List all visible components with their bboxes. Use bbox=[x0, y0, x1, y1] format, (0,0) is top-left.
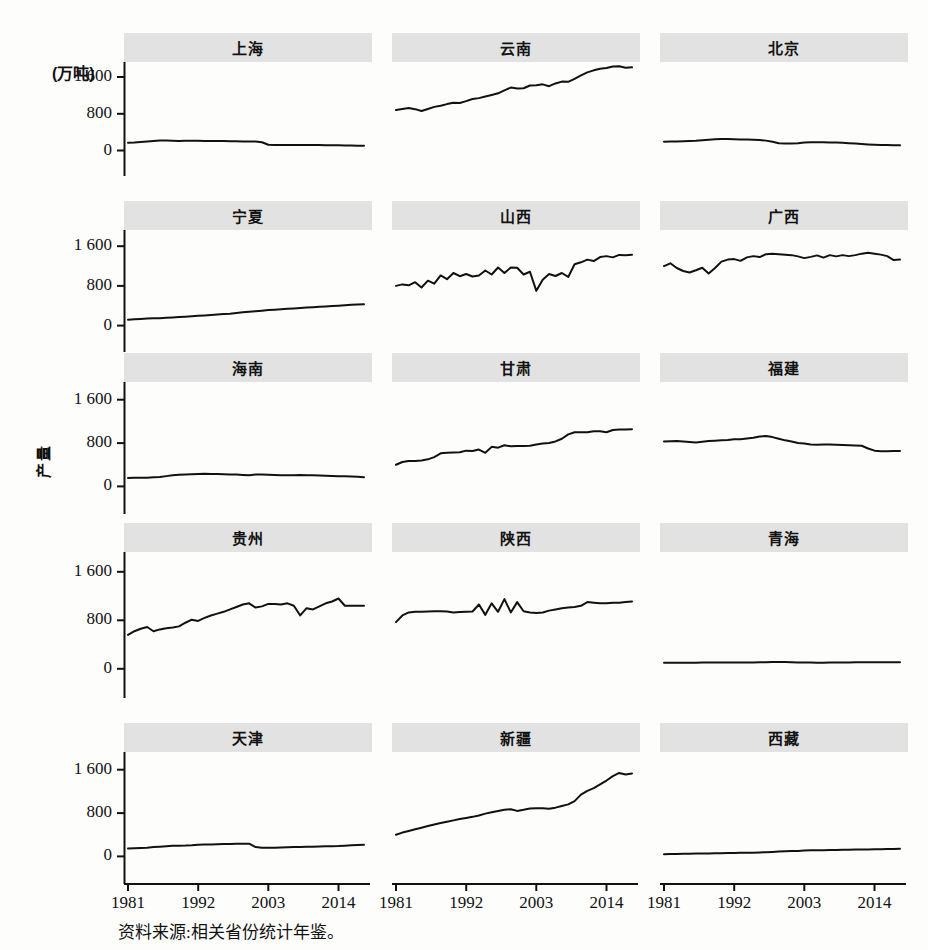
panel-plot bbox=[660, 230, 908, 364]
chart-panel: 海南 bbox=[124, 353, 372, 530]
panel-title-label: 西藏 bbox=[768, 727, 800, 748]
panel-title-strip: 上海 bbox=[124, 33, 372, 62]
panel-plot bbox=[660, 62, 908, 188]
chart-panel: 福建 bbox=[660, 353, 908, 530]
y-axis-tick-label: 0 bbox=[32, 140, 112, 160]
panel-title-label: 云南 bbox=[500, 37, 532, 58]
chart-panel: 北京 bbox=[660, 33, 908, 192]
panel-title-label: 甘肃 bbox=[500, 357, 532, 378]
panel-title-label: 广西 bbox=[768, 205, 800, 226]
chart-panel: 贵州 bbox=[124, 523, 372, 714]
series-line bbox=[128, 141, 364, 146]
series-line bbox=[396, 255, 632, 291]
y-axis-tick-label: 800 bbox=[32, 275, 112, 295]
panel-plot bbox=[392, 752, 640, 896]
panel-title-strip: 北京 bbox=[660, 33, 908, 62]
chart-panel: 西藏 bbox=[660, 723, 908, 900]
panel-title-label: 贵州 bbox=[232, 527, 264, 548]
y-axis-tick-label: 1 600 bbox=[32, 759, 112, 779]
series-line bbox=[664, 849, 900, 854]
panel-title-strip: 甘肃 bbox=[392, 353, 640, 382]
y-axis-tick-label: 0 bbox=[32, 315, 112, 335]
series-line bbox=[664, 436, 900, 451]
panel-plot bbox=[124, 552, 372, 710]
panel-title-label: 天津 bbox=[232, 727, 264, 748]
panel-title-strip: 广西 bbox=[660, 201, 908, 230]
series-line bbox=[396, 429, 632, 465]
panel-title-label: 宁夏 bbox=[232, 205, 264, 226]
y-axis-tick-label: 1 600 bbox=[32, 389, 112, 409]
panel-title-strip: 青海 bbox=[660, 523, 908, 552]
panel-title-strip: 天津 bbox=[124, 723, 372, 752]
panel-title-strip: 贵州 bbox=[124, 523, 372, 552]
series-line bbox=[664, 662, 900, 663]
y-axis-tick-label: 0 bbox=[32, 845, 112, 865]
chart-panel: 陕西 bbox=[392, 523, 640, 714]
y-axis-tick-label: 0 bbox=[32, 658, 112, 678]
panel-title-strip: 海南 bbox=[124, 353, 372, 382]
panel-title-label: 新疆 bbox=[500, 727, 532, 748]
series-line bbox=[664, 139, 900, 145]
y-axis-tick-label: 800 bbox=[32, 802, 112, 822]
trellis-chart-figure: (万吨)产量资料来源:相关省份统计年鉴。08001 600上海云南北京08001… bbox=[0, 0, 928, 950]
chart-panel: 新疆 bbox=[392, 723, 640, 900]
panel-title-strip: 福建 bbox=[660, 353, 908, 382]
chart-panel: 青海 bbox=[660, 523, 908, 714]
panel-title-label: 山西 bbox=[500, 205, 532, 226]
chart-panel: 山西 bbox=[392, 201, 640, 368]
panel-title-strip: 新疆 bbox=[392, 723, 640, 752]
y-axis-tick-label: 800 bbox=[32, 432, 112, 452]
panel-title-label: 北京 bbox=[768, 37, 800, 58]
series-line bbox=[396, 773, 632, 835]
series-line bbox=[128, 474, 364, 478]
series-line bbox=[128, 598, 364, 634]
series-line bbox=[396, 66, 632, 111]
series-line bbox=[128, 844, 364, 849]
panel-plot bbox=[124, 62, 372, 188]
panel-title-label: 陕西 bbox=[500, 527, 532, 548]
panel-title-strip: 陕西 bbox=[392, 523, 640, 552]
panel-title-label: 青海 bbox=[768, 527, 800, 548]
panel-title-strip: 西藏 bbox=[660, 723, 908, 752]
chart-panel: 上海 bbox=[124, 33, 372, 192]
series-line bbox=[128, 304, 364, 319]
y-axis-tick-label: 800 bbox=[32, 103, 112, 123]
source-note: 资料来源:相关省份统计年鉴。 bbox=[118, 918, 344, 943]
panel-title-strip: 宁夏 bbox=[124, 201, 372, 230]
panel-title-label: 海南 bbox=[232, 357, 264, 378]
panel-title-strip: 山西 bbox=[392, 201, 640, 230]
y-axis-tick-label: 1 600 bbox=[32, 235, 112, 255]
y-axis-tick-label: 800 bbox=[32, 609, 112, 629]
panel-title-label: 上海 bbox=[232, 37, 264, 58]
panel-plot bbox=[660, 752, 908, 896]
panel-plot bbox=[392, 230, 640, 364]
chart-panel: 天津 bbox=[124, 723, 372, 900]
y-axis-tick-label: 1 600 bbox=[32, 561, 112, 581]
y-axis-tick-label: 0 bbox=[32, 475, 112, 495]
series-line bbox=[396, 599, 632, 622]
y-axis-tick-label: 1 600 bbox=[32, 66, 112, 86]
series-line bbox=[664, 253, 900, 274]
chart-panel: 广西 bbox=[660, 201, 908, 368]
panel-plot bbox=[660, 552, 908, 710]
panel-plot bbox=[392, 62, 640, 188]
panel-title-label: 福建 bbox=[768, 357, 800, 378]
panel-plot bbox=[124, 230, 372, 364]
chart-panel: 云南 bbox=[392, 33, 640, 192]
chart-panel: 甘肃 bbox=[392, 353, 640, 530]
panel-plot bbox=[660, 382, 908, 526]
panel-plot bbox=[124, 752, 372, 896]
panel-title-strip: 云南 bbox=[392, 33, 640, 62]
panel-plot bbox=[124, 382, 372, 526]
chart-panel: 宁夏 bbox=[124, 201, 372, 368]
panel-plot bbox=[392, 552, 640, 710]
panel-plot bbox=[392, 382, 640, 526]
